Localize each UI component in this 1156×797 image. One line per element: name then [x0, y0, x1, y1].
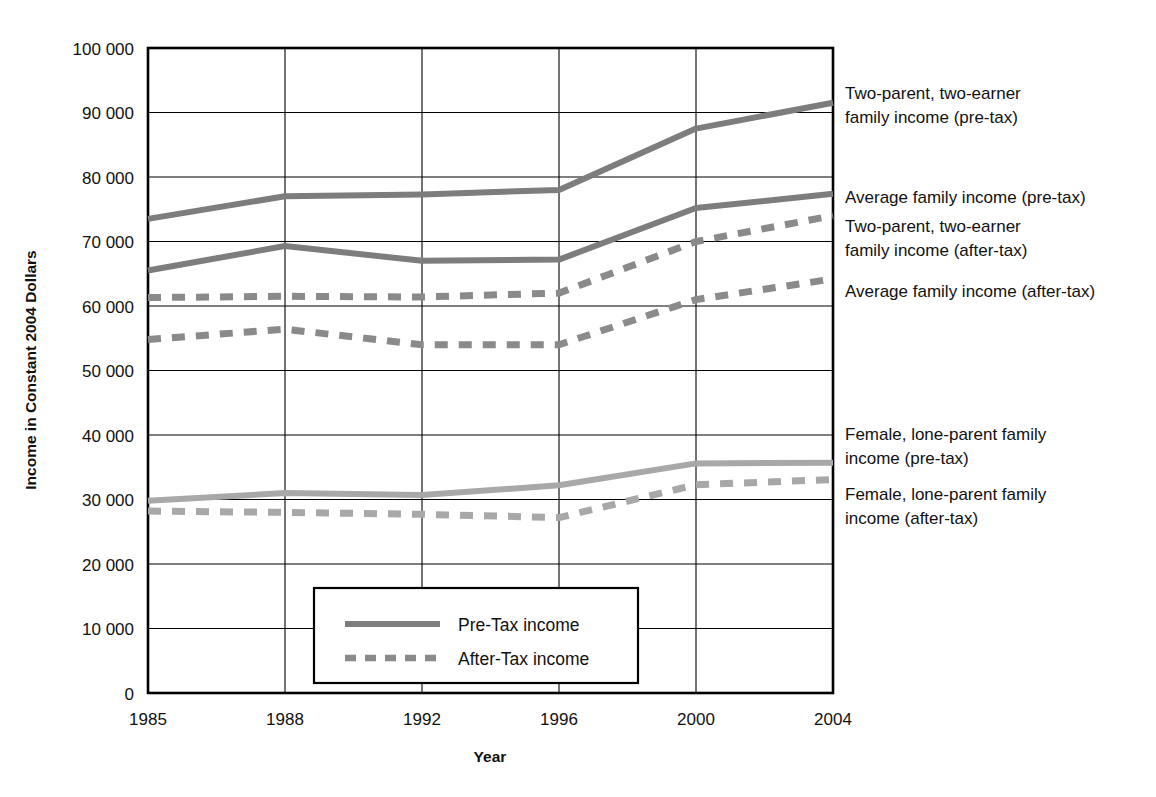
ann-two-parent-after-line1: Two-parent, two-earner: [845, 217, 1021, 236]
ann-female-pre-line2: income (pre-tax): [845, 449, 969, 468]
legend-label-pre-tax: Pre-Tax income: [458, 615, 580, 635]
legend-label-after-tax: After-Tax income: [458, 649, 589, 669]
y-tick-90000: 90 000: [82, 104, 134, 123]
y-tick-60000: 60 000: [82, 298, 134, 317]
y-tick-50000: 50 000: [82, 362, 134, 381]
x-axis-title: Year: [474, 748, 507, 765]
ann-two-parent-after-line2: family income (after-tax): [845, 241, 1027, 260]
x-tick-1988: 1988: [266, 710, 304, 729]
chart-page: 100 000 90 000 80 000 70 000 60 000 50 0…: [0, 0, 1156, 797]
y-tick-40000: 40 000: [82, 427, 134, 446]
legend: Pre-Tax income After-Tax income: [314, 588, 638, 683]
y-tick-0: 0: [125, 685, 134, 704]
y-tick-80000: 80 000: [82, 169, 134, 188]
ann-average-after-line1: Average family income (after-tax): [845, 282, 1095, 301]
ann-female-pre-line1: Female, lone-parent family: [845, 425, 1047, 444]
x-tick-1996: 1996: [540, 710, 578, 729]
x-tick-1992: 1992: [403, 710, 441, 729]
ann-two-parent-pre-line1: Two-parent, two-earner: [845, 84, 1021, 103]
y-tick-70000: 70 000: [82, 233, 134, 252]
income-line-chart: 100 000 90 000 80 000 70 000 60 000 50 0…: [0, 0, 1156, 797]
x-tick-1985: 1985: [129, 710, 167, 729]
ann-two-parent-pre-line2: family income (pre-tax): [845, 108, 1018, 127]
y-tick-20000: 20 000: [82, 556, 134, 575]
x-tick-2004: 2004: [814, 710, 852, 729]
x-tick-2000: 2000: [677, 710, 715, 729]
y-axis-title: Income in Constant 2004 Dollars: [22, 250, 39, 489]
ann-average-pre-line1: Average family income (pre-tax): [845, 188, 1086, 207]
y-tick-100000: 100 000: [73, 40, 134, 59]
ann-female-after-line2: income (after-tax): [845, 509, 978, 528]
ann-female-after-line1: Female, lone-parent family: [845, 485, 1047, 504]
y-tick-30000: 30 000: [82, 491, 134, 510]
y-tick-10000: 10 000: [82, 620, 134, 639]
